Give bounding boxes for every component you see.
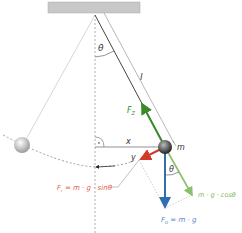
ghost-string bbox=[24, 15, 95, 143]
y-label: y bbox=[130, 153, 136, 162]
length-dimension bbox=[104, 13, 174, 143]
theta-label-bottom: θ bbox=[169, 165, 174, 174]
tension-arrow bbox=[142, 104, 165, 147]
mass-label: m bbox=[177, 143, 185, 152]
normal-component-label: m · g · cosθ bbox=[198, 191, 236, 199]
ceiling bbox=[48, 2, 140, 13]
theta-label-top: θ bbox=[98, 43, 104, 53]
gravity-force-label: FG = m · g bbox=[161, 216, 197, 225]
x-label: x bbox=[125, 137, 131, 146]
restoring-force-label: Fr = m · g · sinθ bbox=[57, 184, 113, 193]
tension-label: FZ bbox=[127, 106, 136, 116]
pendulum-diagram: θ l FZ x y m θ Fr = m · g · sinθ m · g ·… bbox=[0, 0, 242, 233]
length-label: l bbox=[140, 72, 143, 82]
ghost-ball bbox=[14, 137, 30, 153]
mass-ball bbox=[158, 140, 172, 154]
